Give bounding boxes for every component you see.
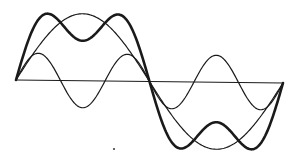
sum-waveform-curve bbox=[16, 14, 283, 150]
fourier-diagram bbox=[0, 0, 295, 164]
stray-dot-mark bbox=[113, 148, 115, 150]
